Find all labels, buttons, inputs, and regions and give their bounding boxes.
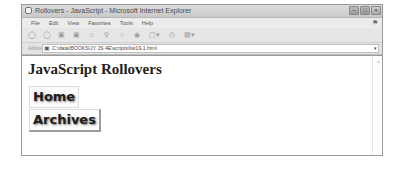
forward-icon[interactable]: ◯	[43, 30, 50, 40]
history-icon[interactable]: ◉	[133, 30, 140, 40]
address-dropdown-icon[interactable]: ▾	[374, 45, 377, 52]
archives-rollover-button[interactable]: Archives	[29, 109, 101, 132]
menu-bar: File Edit View Favorites Tools Help	[22, 18, 382, 28]
close-button[interactable]: ×	[371, 6, 381, 15]
address-value[interactable]: C:\data\BOOKS\JY JS 4E\scripts\list19.1.…	[52, 45, 157, 52]
browser-window: Rollovers - JavaScript - Microsoft Inter…	[21, 4, 383, 156]
home-icon[interactable]: ⌂	[88, 30, 95, 40]
home-rollover-button[interactable]: Home	[29, 86, 79, 108]
address-bar: Address ▣ C:\data\BOOKS\JY JS 4E\scripts…	[22, 43, 382, 55]
title-bar[interactable]: Rollovers - JavaScript - Microsoft Inter…	[22, 5, 382, 18]
menu-file[interactable]: File	[31, 18, 40, 28]
page-heading: JavaScript Rollovers	[28, 61, 162, 78]
edit-icon[interactable]: ▤▾	[183, 30, 195, 40]
scroll-up-icon[interactable]: ▲	[376, 58, 381, 64]
page-content: JavaScript Rollovers Home Archives ▲	[22, 55, 382, 155]
minimize-button[interactable]: –	[349, 6, 359, 15]
vertical-scrollbar[interactable]: ▲	[372, 56, 382, 155]
page-icon: ▣	[44, 45, 50, 52]
ie-icon	[25, 7, 32, 14]
menu-view[interactable]: View	[67, 18, 79, 28]
windows-logo-icon: ⚑	[370, 18, 379, 28]
menu-edit[interactable]: Edit	[49, 18, 58, 28]
favorites-icon[interactable]: ☆	[118, 30, 125, 40]
menu-tools[interactable]: Tools	[120, 18, 133, 28]
print-icon[interactable]: ⎙	[168, 30, 175, 40]
standard-toolbar: ◯ ◯ ▣ ▣ ⌂ ⚲ ☆ ◉ ▢▾ ⎙ ▤▾	[22, 28, 382, 43]
search-icon[interactable]: ⚲	[103, 30, 110, 40]
maximize-button[interactable]: □	[360, 6, 370, 15]
menu-help[interactable]: Help	[142, 18, 153, 28]
window-title: Rollovers - JavaScript - Microsoft Inter…	[35, 6, 191, 16]
stop-icon[interactable]: ▣	[58, 30, 65, 40]
menu-favorites[interactable]: Favorites	[88, 18, 111, 28]
refresh-icon[interactable]: ▣	[73, 30, 80, 40]
window-controls: – □ ×	[349, 6, 381, 16]
address-input[interactable]: ▣ C:\data\BOOKS\JY JS 4E\scripts\list19.…	[42, 44, 379, 53]
mail-icon[interactable]: ▢▾	[148, 30, 160, 40]
back-icon[interactable]: ◯	[28, 30, 35, 40]
